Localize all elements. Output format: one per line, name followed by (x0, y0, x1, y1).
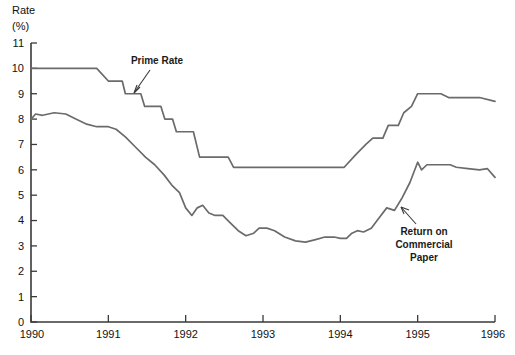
y-tick-label: 5 (18, 189, 24, 201)
x-tick-label: 1995 (405, 328, 429, 340)
commercial-paper-label-line1: Return on (400, 226, 447, 237)
y-tick-label: 4 (18, 214, 24, 226)
y-tick-label: 0 (18, 316, 24, 328)
interest-rate-chart: Rate (%) 01234567891011 1990199119921993… (0, 0, 515, 355)
annotation-commercial-paper: Return on Commercial Paper (395, 207, 452, 263)
y-axis-title-line1: Rate (12, 4, 35, 16)
x-tick-label: 1996 (481, 328, 505, 340)
y-tick-label: 9 (18, 88, 24, 100)
y-tick-label: 7 (18, 138, 24, 150)
annotation-prime-rate: Prime Rate (131, 55, 184, 93)
y-axis-title-line2: (%) (12, 20, 29, 32)
y-axis-ticks: 01234567891011 (12, 37, 37, 328)
y-tick-label: 11 (13, 37, 24, 49)
y-tick-label: 10 (12, 62, 24, 74)
axis-lines (31, 43, 495, 322)
x-tick-label: 1994 (328, 328, 352, 340)
x-tick-label: 1990 (20, 328, 44, 340)
prime-rate-arrow-shaft (134, 70, 150, 93)
y-tick-label: 8 (18, 113, 24, 125)
x-tick-label: 1991 (96, 328, 120, 340)
y-tick-label: 1 (18, 291, 24, 303)
x-axis-ticks: 1990199119921993199419951996 (20, 315, 505, 340)
y-tick-label: 3 (18, 240, 24, 252)
commercial-paper-label-line2: Commercial (395, 239, 452, 250)
y-tick-label: 6 (18, 164, 24, 176)
series-group (31, 68, 495, 242)
series-line-return-on-commercial-paper (31, 113, 495, 242)
chart-canvas: Rate (%) 01234567891011 1990199119921993… (0, 0, 515, 355)
x-tick-label: 1992 (173, 328, 197, 340)
commercial-paper-label-line3: Paper (410, 252, 438, 263)
y-tick-label: 2 (18, 265, 24, 277)
series-line-prime-rate (31, 68, 495, 167)
prime-rate-label: Prime Rate (131, 55, 184, 66)
x-tick-label: 1993 (251, 328, 275, 340)
